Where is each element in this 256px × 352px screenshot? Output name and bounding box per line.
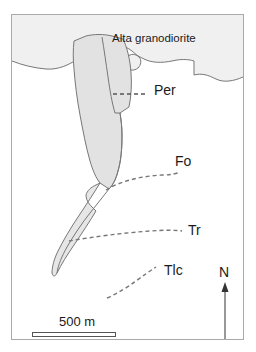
map-label-fo: Fo [175, 154, 191, 168]
central-body-polygon [73, 35, 131, 190]
contact-line-tlc [107, 267, 156, 298]
map-label-per: Per [154, 83, 176, 97]
north-arrow-label: N [219, 265, 229, 279]
scale-bar: 500 m [32, 315, 118, 337]
north-arrow: N [212, 265, 238, 340]
map-geometry [12, 15, 243, 339]
map-label-tlc: Tlc [164, 263, 183, 277]
north-arrow-head [222, 282, 229, 292]
lower-sliver-polygon [52, 183, 100, 276]
north-arrow-glyph [212, 281, 238, 340]
scale-bar-rectangle [32, 332, 116, 337]
map-frame: Alta granodiorite Per Fo Tr Tlc N 500 m [11, 14, 244, 340]
scale-bar-label: 500 m [32, 315, 118, 328]
geologic-map-figure: Alta granodiorite Per Fo Tr Tlc N 500 m [0, 0, 256, 352]
map-label-tr: Tr [188, 223, 201, 237]
map-label-alta-granodiorite: Alta granodiorite [112, 33, 196, 45]
contact-line-tr [69, 230, 182, 241]
